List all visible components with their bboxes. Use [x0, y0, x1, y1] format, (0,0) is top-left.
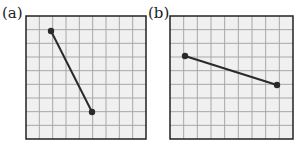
diagram-canvas [0, 0, 294, 150]
grid-background-a [26, 16, 146, 139]
endpoint-dot [182, 53, 188, 59]
grid-background-b [170, 16, 293, 139]
endpoint-dot [89, 109, 95, 115]
endpoint-dot [274, 82, 280, 88]
endpoint-dot [48, 28, 54, 34]
